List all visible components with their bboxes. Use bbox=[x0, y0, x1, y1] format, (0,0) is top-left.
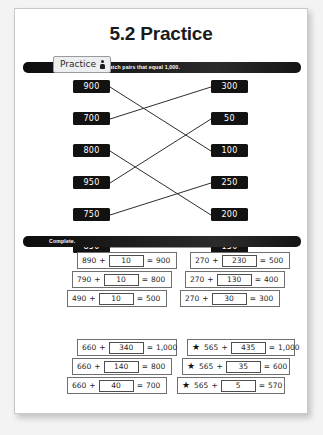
equation-term: 790 bbox=[77, 276, 91, 284]
complete-instruction-band: Complete. bbox=[23, 236, 301, 247]
equation-term: 565 bbox=[204, 344, 218, 352]
equation-operator: + bbox=[89, 382, 95, 390]
equation-term: 660 bbox=[72, 382, 86, 390]
equation-equals: = bbox=[147, 257, 153, 265]
equation-result: 800 bbox=[151, 363, 165, 371]
equation-equals: = bbox=[255, 276, 261, 284]
equation-operator: + bbox=[212, 257, 218, 265]
equation-result: 400 bbox=[264, 276, 278, 284]
match-chip-right[interactable]: 50 bbox=[211, 112, 248, 125]
equation-result: 300 bbox=[259, 295, 273, 303]
equation-result: 900 bbox=[156, 257, 170, 265]
page-title: 5.2 Practice bbox=[15, 23, 307, 45]
equation-result: 500 bbox=[269, 257, 283, 265]
match-chip-right[interactable]: 250 bbox=[211, 176, 248, 189]
equation-equals: = bbox=[259, 382, 265, 390]
match-chip-left[interactable]: 900 bbox=[73, 80, 110, 93]
equation-result: 800 bbox=[151, 276, 165, 284]
equation-answer-box[interactable]: 340 bbox=[109, 342, 144, 354]
equation-term: 490 bbox=[72, 295, 86, 303]
equation-row[interactable]: ★ 565 + 5 = 570 bbox=[177, 377, 285, 394]
equation-answer-box[interactable]: 10 bbox=[99, 293, 134, 305]
equation-answer-box[interactable]: 140 bbox=[104, 361, 139, 373]
equation-row[interactable]: 270 + 30 = 300 bbox=[180, 290, 280, 307]
equation-term: 270 bbox=[185, 295, 199, 303]
complete-instruction-text: Complete. bbox=[49, 238, 75, 244]
equation-term: 890 bbox=[82, 257, 96, 265]
equation-operator: + bbox=[221, 344, 227, 352]
equation-operator: + bbox=[207, 276, 213, 284]
equation-operator: + bbox=[99, 344, 105, 352]
equation-term: 270 bbox=[190, 276, 204, 284]
equation-answer-box[interactable]: 130 bbox=[217, 274, 252, 286]
equation-row[interactable]: 660 + 40 = 700 bbox=[67, 377, 167, 394]
complete-activity: 890 + 10 = 900 790 + 10 = 800 490 + 10 =… bbox=[15, 252, 307, 412]
equation-equals: = bbox=[264, 363, 270, 371]
equation-operator: + bbox=[202, 295, 208, 303]
equation-operator: + bbox=[211, 382, 217, 390]
equation-result: 700 bbox=[146, 382, 160, 390]
match-chip-left[interactable]: 800 bbox=[73, 144, 110, 157]
star-icon: ★ bbox=[182, 381, 190, 390]
practice-activity-tab[interactable]: Practice bbox=[53, 56, 111, 73]
equation-equals: = bbox=[142, 276, 148, 284]
equation-term: 270 bbox=[195, 257, 209, 265]
match-chip-left[interactable]: 700 bbox=[73, 112, 110, 125]
equation-answer-box[interactable]: 10 bbox=[109, 255, 144, 267]
person-icon bbox=[100, 60, 105, 70]
equation-row[interactable]: 270 + 130 = 400 bbox=[185, 271, 285, 288]
equation-operator: + bbox=[94, 276, 100, 284]
equation-answer-box[interactable]: 435 bbox=[231, 342, 266, 354]
equation-result: 1,000 bbox=[278, 344, 299, 352]
equation-result: 600 bbox=[273, 363, 287, 371]
match-chip-right[interactable]: 100 bbox=[211, 144, 248, 157]
match-connection-lines bbox=[15, 75, 307, 235]
equation-result: 500 bbox=[146, 295, 160, 303]
equation-equals: = bbox=[260, 257, 266, 265]
equation-operator: + bbox=[216, 363, 222, 371]
equation-equals: = bbox=[269, 344, 275, 352]
match-line-950-50 bbox=[110, 119, 211, 183]
equation-operator: + bbox=[99, 257, 105, 265]
equation-term: 660 bbox=[77, 363, 91, 371]
equation-row[interactable]: ★ 565 + 435 = 1,000 bbox=[187, 339, 295, 356]
match-chip-right[interactable]: 300 bbox=[211, 80, 248, 93]
equation-answer-box[interactable]: 10 bbox=[104, 274, 139, 286]
equation-row[interactable]: 660 + 140 = 800 bbox=[72, 358, 172, 375]
equation-row[interactable]: 490 + 10 = 500 bbox=[67, 290, 167, 307]
equation-answer-box[interactable]: 40 bbox=[99, 380, 134, 392]
match-line-900-100 bbox=[110, 87, 211, 151]
match-line-800-200 bbox=[110, 151, 211, 215]
match-line-700-300 bbox=[110, 87, 211, 119]
match-chip-left[interactable]: 750 bbox=[73, 208, 110, 221]
equation-answer-box[interactable]: 230 bbox=[222, 255, 257, 267]
equation-result: 1,000 bbox=[156, 344, 177, 352]
worksheet-page: 5.2 Practice Match pairs that equal 1,00… bbox=[14, 8, 308, 414]
match-instruction-text: Match pairs that equal 1,000. bbox=[105, 64, 180, 70]
equation-result: 570 bbox=[268, 382, 282, 390]
star-icon: ★ bbox=[192, 343, 200, 352]
equation-term: 565 bbox=[194, 382, 208, 390]
star-icon: ★ bbox=[187, 362, 195, 371]
equation-term: 660 bbox=[82, 344, 96, 352]
equation-answer-box[interactable]: 30 bbox=[212, 293, 247, 305]
equation-row[interactable]: 270 + 230 = 500 bbox=[190, 252, 290, 269]
equation-answer-box[interactable]: 5 bbox=[221, 380, 256, 392]
equation-row[interactable]: 890 + 10 = 900 bbox=[77, 252, 177, 269]
equation-equals: = bbox=[142, 363, 148, 371]
equation-equals: = bbox=[137, 295, 143, 303]
match-chip-left[interactable]: 950 bbox=[73, 176, 110, 189]
equation-operator: + bbox=[89, 295, 95, 303]
equation-equals: = bbox=[250, 295, 256, 303]
equation-row[interactable]: ★ 565 + 35 = 600 bbox=[182, 358, 290, 375]
equation-operator: + bbox=[94, 363, 100, 371]
equation-row[interactable]: 790 + 10 = 800 bbox=[72, 271, 172, 288]
match-activity: 900 700 800 950 750 850 300 50 100 250 2… bbox=[15, 75, 307, 235]
equation-answer-box[interactable]: 35 bbox=[226, 361, 261, 373]
equation-term: 565 bbox=[199, 363, 213, 371]
practice-tab-label: Practice bbox=[60, 60, 96, 69]
equation-equals: = bbox=[137, 382, 143, 390]
match-chip-right[interactable]: 200 bbox=[211, 208, 248, 221]
match-line-750-250 bbox=[110, 183, 211, 215]
equation-row[interactable]: 660 + 340 = 1,000 bbox=[77, 339, 177, 356]
